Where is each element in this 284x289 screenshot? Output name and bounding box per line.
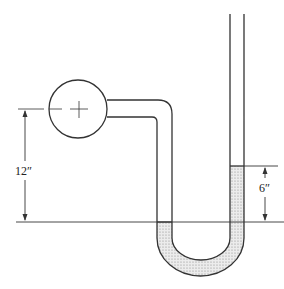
label-12in: 12″ (15, 164, 32, 178)
label-6in: 6″ (259, 181, 270, 195)
manometer-diagram: 12″ 6″ (0, 0, 284, 289)
